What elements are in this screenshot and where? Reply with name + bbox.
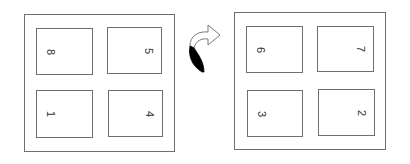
page-number: 3: [255, 109, 267, 119]
page-bottom-left: 3: [247, 90, 303, 137]
page-number: 6: [254, 45, 266, 55]
sheet-back: 6 7 3 2: [234, 12, 386, 150]
page-top-right: 7: [317, 26, 374, 72]
page-number: 8: [44, 47, 56, 57]
sheet-front: 8 5 1 4: [24, 14, 175, 152]
page-number: 1: [44, 109, 56, 119]
page-bottom-right: 4: [108, 90, 163, 137]
flip-arrow-icon: [184, 22, 224, 74]
page-top-left: 6: [246, 26, 303, 73]
page-bottom-right: 2: [318, 89, 375, 136]
page-top-left: 8: [36, 28, 93, 75]
page-number: 4: [143, 109, 155, 119]
page-number: 5: [142, 46, 154, 56]
page-number: 2: [355, 108, 367, 118]
page-number: 7: [354, 44, 366, 54]
page-top-right: 5: [107, 27, 162, 74]
page-bottom-left: 1: [36, 90, 93, 138]
